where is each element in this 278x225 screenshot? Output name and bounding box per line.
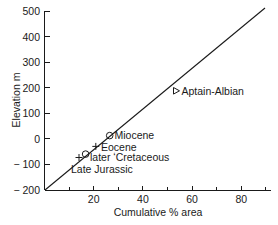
label-later-cretaceous: later ʻCretaceous <box>90 151 169 163</box>
label-late-jurassic: Late Jurassic <box>71 163 133 175</box>
data-point-miocene <box>106 132 113 139</box>
y-tick-label-0: 0 <box>34 133 40 145</box>
chart-canvas: 500 400 300 200 100 0 − 100 − 200 20 40 … <box>0 0 278 225</box>
y-tick-label-neg200: − 200 <box>13 184 40 196</box>
y-axis <box>45 11 50 190</box>
y-tick-label-200: 200 <box>22 82 40 94</box>
y-tick-label-400: 400 <box>22 31 40 43</box>
x-tick-label-60: 60 <box>186 193 198 205</box>
label-miocene: Miocene <box>115 129 155 141</box>
y-tick-label-500: 500 <box>22 5 40 17</box>
x-tick-label-20: 20 <box>88 193 100 205</box>
y-tick-label-neg100: − 100 <box>13 158 40 170</box>
y-tick-label-300: 300 <box>22 56 40 68</box>
x-axis <box>45 186 272 191</box>
x-axis-title: Cumulative % area <box>114 206 203 218</box>
y-tick-label-100: 100 <box>22 107 40 119</box>
x-tick-label-40: 40 <box>137 193 149 205</box>
label-aptain-albian: Aptain-Albian <box>182 85 245 97</box>
elevation-vs-cumulative-area-chart: 500 400 300 200 100 0 − 100 − 200 20 40 … <box>0 0 278 225</box>
data-point-aptain-albian <box>174 88 180 95</box>
y-axis-title: Elevation m <box>10 72 22 127</box>
x-tick-label-80: 80 <box>235 193 247 205</box>
data-point-eocene <box>92 143 99 150</box>
